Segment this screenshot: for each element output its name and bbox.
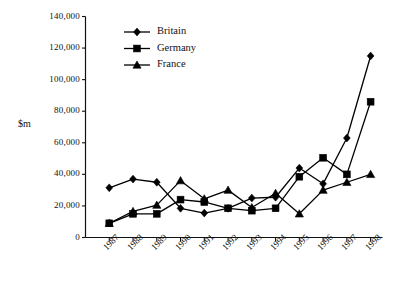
triangle-icon: [224, 186, 232, 193]
series-france: [105, 170, 375, 226]
diamond-icon: [106, 184, 113, 192]
y-axis-tick-label: 100,000: [20, 74, 80, 84]
diamond-icon: [201, 209, 208, 217]
triangle-icon: [367, 170, 375, 177]
axes: [82, 17, 383, 242]
square-icon: [153, 210, 160, 217]
y-axis-title: $m: [18, 118, 31, 129]
series-britain: [106, 52, 374, 217]
square-icon: [177, 196, 184, 203]
diamond-icon: [134, 28, 141, 36]
triangle-icon: [176, 177, 184, 184]
square-icon: [272, 205, 279, 212]
y-axis-tick-label: 120,000: [20, 42, 80, 52]
square-icon: [367, 98, 374, 105]
legend-label-square: Germany: [157, 42, 196, 53]
y-axis-tick-label: 40,000: [20, 168, 80, 178]
square-icon: [225, 205, 232, 212]
legend-label-diamond: Britain: [157, 25, 186, 36]
y-axis-tick-label: 60,000: [20, 137, 80, 147]
square-icon: [134, 45, 141, 52]
y-axis-tick-label: 80,000: [20, 105, 80, 115]
y-axis-tick-label: 20,000: [20, 200, 80, 210]
diamond-icon: [248, 194, 255, 202]
square-icon: [296, 173, 303, 180]
series-line: [109, 102, 370, 224]
diamond-icon: [367, 52, 374, 60]
legend-label-triangle: France: [157, 58, 186, 69]
series-line: [109, 56, 370, 213]
square-icon: [343, 171, 350, 178]
diamond-icon: [130, 175, 137, 183]
data-series-group: [105, 52, 375, 227]
diamond-icon: [343, 134, 350, 142]
line-chart: 020,00040,00060,00080,000100,000120,0001…: [0, 0, 404, 281]
square-icon: [320, 154, 327, 161]
legend-marker-group: [124, 28, 150, 68]
y-axis-tick-label: 0: [20, 232, 80, 242]
y-axis-tick-label: 140,000: [20, 11, 80, 21]
